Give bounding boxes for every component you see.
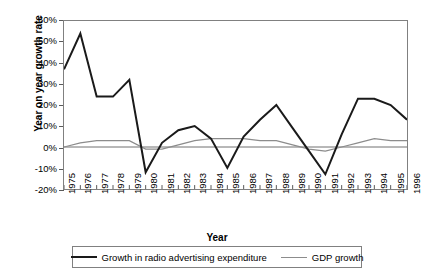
y-axis-tick-label: 30% bbox=[13, 79, 57, 89]
x-axis-tick-label: 1982 bbox=[182, 173, 192, 194]
plot-area bbox=[63, 20, 408, 190]
x-axis-tick-label: 1983 bbox=[198, 173, 208, 194]
x-axis-tick-label: 1979 bbox=[133, 173, 143, 194]
chart-figure: Year on year growth rate 60%50%40%30%20%… bbox=[0, 0, 434, 277]
x-axis-tick-label: 1994 bbox=[379, 173, 389, 194]
x-axis-tick-label: 1990 bbox=[313, 173, 323, 194]
legend-item-gdp-growth: GDP growth bbox=[281, 252, 364, 263]
legend-item-radio-advertising: Growth in radio advertising expenditure bbox=[71, 252, 267, 263]
y-axis-tick-mark bbox=[59, 190, 64, 191]
y-axis-tick-label: 0% bbox=[13, 143, 57, 153]
data-series-line bbox=[64, 34, 407, 175]
x-axis-tick-label: 1991 bbox=[330, 173, 340, 194]
y-axis-tick-label: -10% bbox=[13, 164, 57, 174]
x-axis-tick-label: 1993 bbox=[363, 173, 373, 194]
y-axis-tick-label: 50% bbox=[13, 36, 57, 46]
x-axis-tick-label: 1985 bbox=[231, 173, 241, 194]
legend-swatch-line bbox=[281, 257, 307, 258]
x-axis-tick-label: 1989 bbox=[297, 173, 307, 194]
y-axis-tick-label: -20% bbox=[13, 185, 57, 195]
y-axis-tick-label: 40% bbox=[13, 58, 57, 68]
x-axis-tick-label: 1996 bbox=[412, 173, 422, 194]
series-canvas bbox=[64, 21, 407, 189]
x-axis-tick-label: 1981 bbox=[166, 173, 176, 194]
y-axis-tick-label: 60% bbox=[13, 15, 57, 25]
x-axis-tick-label: 1975 bbox=[67, 173, 77, 194]
x-axis-title: Year bbox=[0, 232, 434, 243]
x-axis-tick-label: 1980 bbox=[149, 173, 159, 194]
legend-label: GDP growth bbox=[312, 252, 364, 263]
x-axis-tick-label: 1987 bbox=[264, 173, 274, 194]
x-axis-tick-label: 1992 bbox=[346, 173, 356, 194]
x-axis-tick-label: 1984 bbox=[215, 173, 225, 194]
y-axis-tick-label: 10% bbox=[13, 121, 57, 131]
x-axis-tick-label: 1977 bbox=[100, 173, 110, 194]
legend-swatch-line bbox=[71, 256, 97, 258]
x-axis-tick-label: 1988 bbox=[281, 173, 291, 194]
x-axis-tick-label: 1995 bbox=[396, 173, 406, 194]
x-axis-tick-label: 1978 bbox=[116, 173, 126, 194]
chart-legend: Growth in radio advertising expenditure … bbox=[72, 246, 362, 268]
legend-label: Growth in radio advertising expenditure bbox=[102, 252, 267, 263]
y-axis-tick-label: 20% bbox=[13, 100, 57, 110]
data-series-line bbox=[64, 139, 407, 152]
x-axis-tick-label: 1976 bbox=[83, 173, 93, 194]
x-axis-tick-label: 1986 bbox=[248, 173, 258, 194]
